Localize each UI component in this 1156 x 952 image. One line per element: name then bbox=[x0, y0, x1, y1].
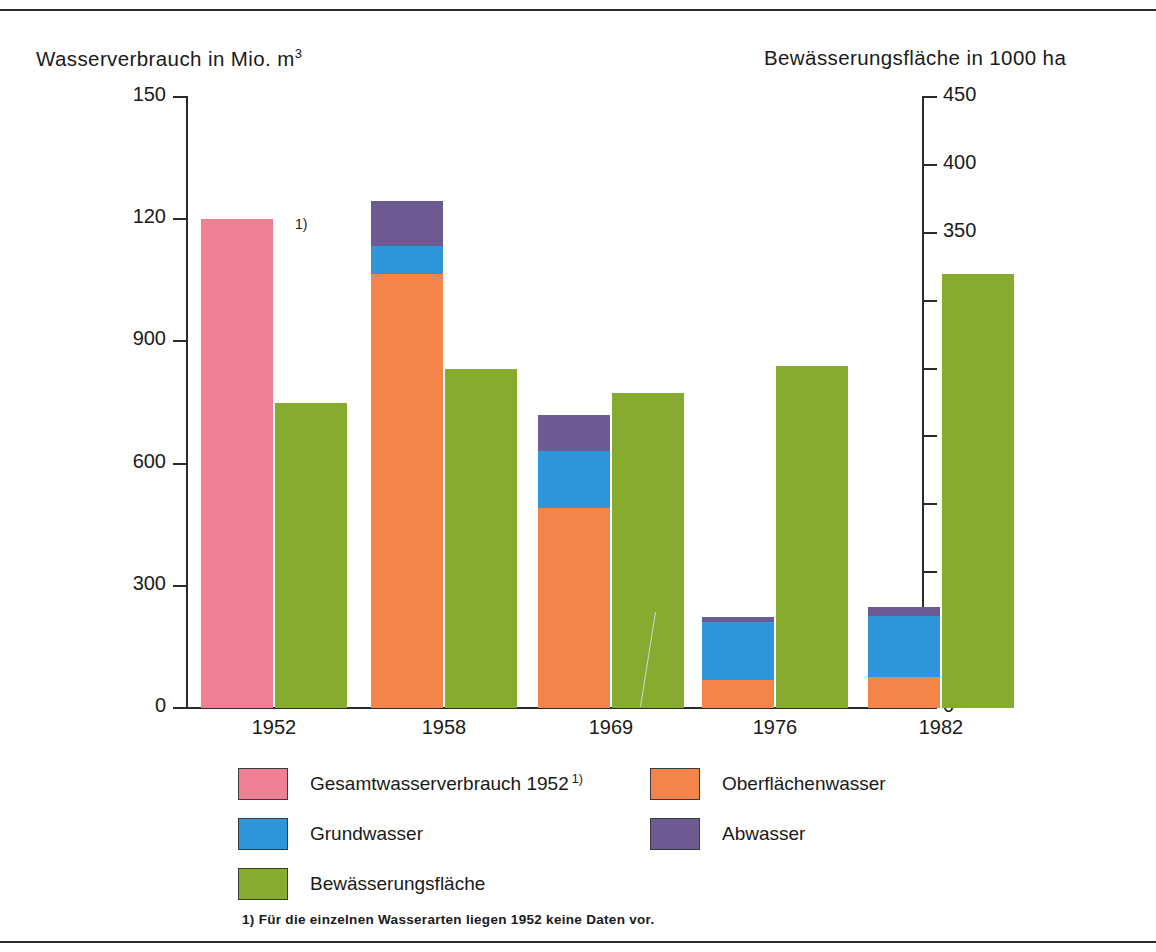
water-bar-1969 bbox=[538, 415, 610, 708]
left-tick-label-900: 900 bbox=[106, 327, 166, 350]
left-tick-0 bbox=[173, 707, 186, 709]
x-label-1976: 1976 bbox=[715, 716, 835, 739]
page-bottom-rule bbox=[0, 941, 1156, 952]
irrigation-bar-1982 bbox=[942, 274, 1014, 708]
right-tick-400 bbox=[924, 164, 937, 166]
right-axis-caption: Bewässerungsfläche in 1000 ha bbox=[764, 46, 1066, 70]
left-tick-300 bbox=[173, 585, 186, 587]
water-bar-1952 bbox=[201, 219, 273, 708]
footnote-marker-1952: 1) bbox=[295, 216, 307, 232]
right-tick-label-450: 450 bbox=[943, 83, 976, 106]
legend-swatch-oberflaechenwasser bbox=[650, 768, 700, 800]
left-axis-caption-exponent: 3 bbox=[295, 46, 303, 61]
left-axis-line bbox=[186, 96, 188, 709]
legend-swatch-gesamtwasserverbrauch bbox=[238, 768, 288, 800]
right-tick-label-350: 350 bbox=[943, 219, 976, 242]
water-bar-1982 bbox=[868, 607, 940, 708]
left-tick-900 bbox=[173, 340, 186, 342]
left-tick-label-150: 150 bbox=[106, 83, 166, 106]
segment-oberflaechenwasser-1958 bbox=[371, 274, 443, 708]
left-tick-label-120: 120 bbox=[106, 205, 166, 228]
segment-abwasser-1969 bbox=[538, 415, 610, 452]
legend-item-gesamtwasserverbrauch: Gesamtwasserverbrauch 19521) bbox=[238, 768, 583, 800]
right-tick-200 bbox=[924, 435, 937, 437]
legend-label-grundwasser: Grundwasser bbox=[310, 823, 423, 845]
legend-label-bewaesserungsflaeche: Bewässerungsfläche bbox=[310, 873, 485, 895]
left-axis-caption: Wasserverbrauch in Mio. m3 bbox=[36, 46, 302, 71]
left-tick-label-0: 0 bbox=[106, 694, 166, 717]
chart-legend: Gesamtwasserverbrauch 19521)Oberflächenw… bbox=[238, 768, 938, 888]
right-tick-150 bbox=[924, 503, 937, 505]
irrigation-bar-1952 bbox=[275, 403, 347, 709]
segment-grundwasser-1982 bbox=[868, 616, 940, 678]
right-tick-250 bbox=[924, 368, 937, 370]
segment-abwasser-1958 bbox=[371, 201, 443, 246]
chart-footnote: 1) Für die einzelnen Wasserarten liegen … bbox=[242, 912, 654, 927]
legend-item-abwasser: Abwasser bbox=[650, 818, 805, 850]
segment-oberflaechenwasser-1982 bbox=[868, 677, 940, 708]
left-tick-600 bbox=[173, 463, 186, 465]
legend-swatch-abwasser bbox=[650, 818, 700, 850]
segment-gesamtwasserverbrauch-1952 bbox=[201, 219, 273, 708]
right-tick-100 bbox=[924, 571, 937, 573]
right-tick-300 bbox=[924, 300, 937, 302]
legend-item-grundwasser: Grundwasser bbox=[238, 818, 423, 850]
x-label-1958: 1958 bbox=[384, 716, 504, 739]
segment-oberflaechenwasser-1976 bbox=[702, 680, 774, 709]
segment-grundwasser-1976 bbox=[702, 622, 774, 680]
water-bar-1958 bbox=[371, 201, 443, 708]
segment-abwasser-1976 bbox=[702, 617, 774, 622]
segment-grundwasser-1969 bbox=[538, 451, 610, 508]
page-top-rule bbox=[0, 0, 1156, 11]
legend-label-oberflaechenwasser: Oberflächenwasser bbox=[722, 773, 886, 795]
right-tick-450 bbox=[924, 96, 937, 98]
legend-footnote-marker-gesamtwasserverbrauch: 1) bbox=[572, 772, 583, 786]
left-tick-120 bbox=[173, 218, 186, 220]
irrigation-bar-1976 bbox=[776, 366, 848, 708]
legend-item-bewaesserungsflaeche: Bewässerungsfläche bbox=[238, 868, 485, 900]
segment-abwasser-1982 bbox=[868, 607, 940, 616]
right-tick-label-400: 400 bbox=[943, 151, 976, 174]
x-label-1982: 1982 bbox=[881, 716, 1001, 739]
chart-plot-area: 0300600900120150 05010015020025030035040… bbox=[186, 96, 924, 708]
left-axis-caption-text: Wasserverbrauch in Mio. m bbox=[36, 47, 295, 70]
legend-swatch-bewaesserungsflaeche bbox=[238, 868, 288, 900]
left-tick-label-600: 600 bbox=[106, 450, 166, 473]
legend-item-oberflaechenwasser: Oberflächenwasser bbox=[650, 768, 886, 800]
left-tick-150 bbox=[173, 96, 186, 98]
segment-oberflaechenwasser-1969 bbox=[538, 508, 610, 708]
water-bar-1976 bbox=[702, 617, 774, 708]
x-label-1952: 1952 bbox=[214, 716, 334, 739]
right-tick-350 bbox=[924, 232, 937, 234]
legend-label-abwasser: Abwasser bbox=[722, 823, 805, 845]
legend-label-gesamtwasserverbrauch: Gesamtwasserverbrauch 19521) bbox=[310, 772, 583, 795]
left-tick-label-300: 300 bbox=[106, 572, 166, 595]
irrigation-bar-1958 bbox=[445, 369, 517, 708]
x-label-1969: 1969 bbox=[551, 716, 671, 739]
segment-grundwasser-1958 bbox=[371, 246, 443, 275]
legend-swatch-grundwasser bbox=[238, 818, 288, 850]
